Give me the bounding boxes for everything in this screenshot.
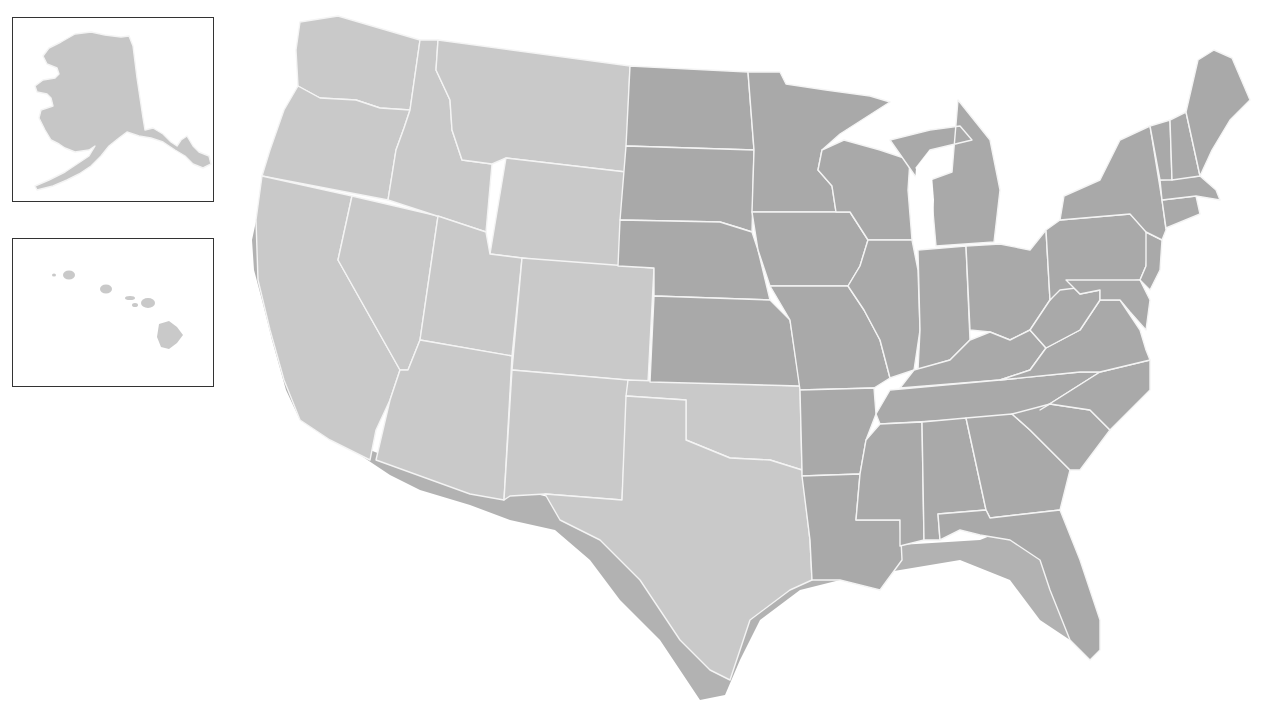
state-colorado[interactable]	[512, 258, 654, 382]
state-montana[interactable]	[436, 40, 630, 172]
state-maine[interactable]	[1186, 50, 1250, 176]
state-iowa[interactable]	[752, 212, 868, 286]
state-north-dakota[interactable]	[626, 66, 754, 150]
state-south-dakota[interactable]	[620, 146, 754, 232]
state-wyoming[interactable]	[490, 158, 626, 270]
main-map	[0, 0, 1271, 703]
state-kansas[interactable]	[650, 296, 800, 386]
state-connecticut-ri[interactable]	[1162, 196, 1200, 228]
state-new-mexico[interactable]	[504, 370, 628, 500]
